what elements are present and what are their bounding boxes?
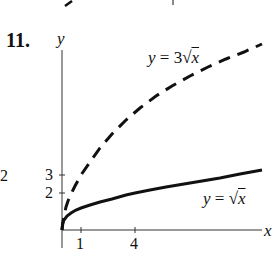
problem-number: 11. [6, 30, 30, 50]
solid-label-x: x [238, 189, 246, 208]
dashed-curve-label: y = 3√x [148, 49, 199, 66]
previous-figure-fragment [65, 1, 72, 6]
y-tick-label-3: 3 [45, 167, 53, 183]
margin-fragment-text: 2 [0, 168, 8, 184]
x-tick-label-1: 1 [76, 236, 84, 252]
dashed-label-eq: = 3 [160, 48, 182, 67]
x-axis-label: x [264, 222, 272, 239]
x-tick-label-4: 4 [130, 236, 138, 252]
solid-label-y: y [203, 189, 211, 208]
y-tick-label-2: 2 [45, 185, 53, 201]
y-axis-label: y [57, 30, 65, 47]
dashed-label-y: y [148, 48, 156, 67]
dashed-label-x: x [191, 48, 199, 67]
solid-curve-label: y = √x [203, 190, 246, 207]
solid-label-eq: = [215, 189, 225, 208]
sqrt-icon: √ [229, 189, 238, 208]
chart-canvas [0, 0, 273, 260]
